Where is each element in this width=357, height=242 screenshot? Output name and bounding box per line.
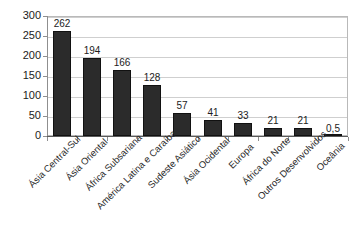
y-axis-tick-label: 200 (0, 50, 41, 61)
x-axis-category-label: América Latina e Caraíbas (156, 142, 164, 150)
y-axis-tick-label: 250 (0, 30, 41, 41)
y-axis-tick-mark (43, 76, 47, 77)
x-axis-tick-mark (258, 137, 259, 141)
x-axis-category-label: África Subsariana (126, 142, 134, 150)
bar (204, 120, 222, 136)
x-axis-category-label: Ásia Oriental (96, 142, 104, 150)
bar (83, 58, 101, 136)
bar-value-label: 21 (297, 116, 308, 126)
bar (264, 128, 282, 136)
category-label-text: Sudeste Asiático (146, 133, 203, 190)
bar (113, 70, 131, 136)
y-axis-tick-label: 50 (0, 110, 41, 121)
x-axis-category-label: Ásia Central-Sul (66, 142, 74, 150)
y-axis-tick-label: 0 (0, 130, 41, 141)
x-axis-category-label: Ásia Ocidental (217, 142, 225, 150)
y-axis-tick-label: 150 (0, 70, 41, 81)
y-axis-tick-label: 300 (0, 10, 41, 21)
bar (143, 85, 161, 136)
bar-value-label: 0,5 (326, 124, 340, 134)
bar-value-label: 41 (207, 108, 218, 118)
y-axis-tick-mark (43, 16, 47, 17)
y-axis-tick-label: 100 (0, 90, 41, 101)
bar-chart-figure: 050100150200250300 262194166128574133212… (0, 0, 357, 242)
x-axis-category-label: Sudeste Asiático (186, 142, 194, 150)
bar-value-label: 166 (114, 58, 131, 68)
y-axis-line (47, 16, 48, 137)
bar-value-label: 57 (176, 101, 187, 111)
bar-value-label: 194 (84, 46, 101, 56)
x-axis-tick-mark (107, 137, 108, 141)
y-axis-tick-mark (43, 36, 47, 37)
x-axis-category-label: Europa (247, 142, 255, 150)
x-axis-category-label: Oceânia (337, 142, 345, 150)
y-axis-tick-mark (43, 116, 47, 117)
bar (234, 123, 252, 136)
x-axis-category-label: Outros Desenvolvidos (307, 142, 315, 150)
bar-value-label: 128 (144, 73, 161, 83)
y-axis-tick-mark (43, 56, 47, 57)
x-axis-tick-mark (47, 137, 48, 141)
bar (53, 31, 71, 136)
bar-value-label: 262 (54, 19, 71, 29)
bar-value-label: 33 (237, 111, 248, 121)
x-axis-category-label: África do Norte (277, 142, 285, 150)
y-axis: 050100150200250300 (0, 0, 44, 242)
x-axis-tick-mark (348, 137, 349, 141)
y-axis-tick-mark (43, 96, 47, 97)
bar-value-label: 21 (267, 116, 278, 126)
bar (294, 128, 312, 136)
